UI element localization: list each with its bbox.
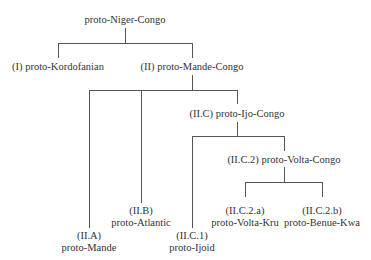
edge-line (58, 43, 59, 58)
edge-line (58, 43, 193, 44)
edge-line (245, 182, 246, 197)
node-mande: (II.A)proto-Mande (62, 230, 117, 254)
edge-line (125, 28, 126, 43)
edge-line (141, 90, 142, 203)
edge-line (192, 43, 193, 58)
edge-line (192, 136, 193, 228)
node-volta-congo: (II.C.2) proto-Volta-Congo (227, 154, 340, 166)
node-atlantic: (II.B)proto-Atlantic (111, 205, 170, 229)
niger-congo-tree: proto-Niger-Congo (I) proto-Kordofanian … (0, 0, 371, 260)
edge-line (89, 90, 238, 91)
node-ijo-congo: (II.C) proto-Ijo-Congo (189, 108, 284, 120)
node-root: proto-Niger-Congo (85, 14, 166, 26)
edge-line (89, 90, 90, 228)
edge-line (237, 122, 238, 136)
node-benue-kwa: (II.C.2.b)proto-Benue-Kwa (284, 205, 360, 229)
edge-line (322, 182, 323, 197)
node-ijoid: (II.C.1)proto-Ijoid (169, 230, 215, 254)
node-kordofanian: (I) proto-Kordofanian (12, 61, 104, 73)
edge-line (192, 75, 193, 90)
edge-line (284, 136, 285, 151)
edge-line (245, 182, 323, 183)
node-mande-congo: (II) proto-Mande-Congo (141, 61, 244, 73)
node-volta-kru: (II.C.2.a)proto-Volta-Kru (211, 205, 278, 229)
edge-line (284, 167, 285, 182)
edge-line (237, 90, 238, 104)
edge-line (192, 136, 285, 137)
